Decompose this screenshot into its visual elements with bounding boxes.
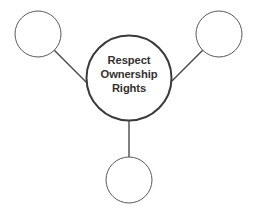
node-top-left[interactable] — [15, 11, 61, 57]
hub-and-spoke-diagram: Respect Ownership Rights — [0, 0, 253, 206]
center-node-line-1: Respect — [108, 54, 151, 66]
diagram-canvas: Respect Ownership Rights — [0, 0, 253, 206]
node-top-right[interactable] — [196, 11, 242, 57]
node-bottom[interactable] — [106, 157, 152, 203]
center-node-line-2: Ownership — [101, 68, 158, 80]
center-node-line-3: Rights — [112, 82, 146, 94]
